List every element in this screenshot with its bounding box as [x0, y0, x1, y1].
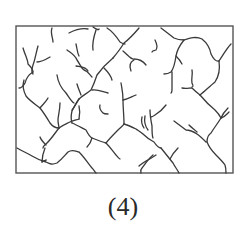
stream-segment — [200, 95, 221, 118]
stream-segment — [207, 142, 226, 173]
stream-segment — [42, 148, 45, 162]
figure-caption: (4) — [0, 192, 246, 222]
stream-segment — [51, 28, 53, 42]
stream-segment — [184, 37, 219, 61]
stream-segment — [72, 99, 79, 110]
stream-segment — [151, 105, 166, 117]
stream-segment — [123, 95, 136, 100]
stream-segment — [174, 121, 206, 142]
stream-segment — [57, 75, 74, 103]
stream-segment — [37, 57, 50, 62]
stream-segment — [100, 105, 108, 114]
stream-segment — [76, 44, 79, 56]
stream-segment — [92, 90, 108, 93]
stream-segment — [121, 83, 124, 124]
stream-segment — [67, 50, 92, 77]
stream-segment — [161, 148, 179, 173]
stream-segment — [142, 117, 144, 128]
stream-segment — [192, 70, 193, 87]
stream-segment — [40, 98, 48, 108]
stream-segment — [59, 119, 79, 128]
stream-segment — [152, 40, 157, 52]
stream-lines — [17, 27, 231, 173]
stream-segment — [164, 40, 184, 74]
stream-segment — [200, 61, 219, 95]
stream-segment — [58, 103, 60, 128]
stream-segment — [171, 72, 172, 93]
stream-segment — [104, 68, 112, 80]
stream-segment — [150, 110, 153, 138]
stream-segment — [19, 72, 33, 88]
stream-segment — [182, 88, 200, 95]
stream-segment — [93, 27, 99, 30]
stream-segment — [72, 123, 120, 159]
stream-segment — [176, 56, 182, 64]
stream-segment — [40, 137, 46, 145]
stream-segment — [77, 84, 81, 95]
stream-segment — [123, 51, 146, 65]
stream-segment — [69, 29, 88, 33]
stream-segment — [130, 60, 134, 71]
stream-segment — [17, 148, 96, 173]
stream-segment — [145, 116, 148, 130]
stream-segment — [107, 28, 125, 44]
stream-segment — [87, 138, 92, 147]
stream-segment — [106, 124, 124, 143]
drainage-pattern-figure: (4) — [0, 0, 246, 230]
stream-segment — [161, 28, 184, 40]
stream-segment — [23, 80, 59, 128]
stream-segment — [207, 118, 221, 142]
stream-segment — [219, 44, 231, 61]
stream-segment — [79, 106, 80, 119]
stream-segment — [170, 148, 178, 159]
stream-segment — [93, 30, 96, 50]
stream-segment — [124, 124, 161, 148]
